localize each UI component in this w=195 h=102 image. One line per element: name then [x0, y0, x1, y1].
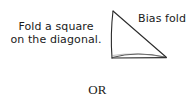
or-label: OR — [0, 82, 195, 97]
triangle-left-edge — [111, 11, 113, 58]
bias-fold-label: Bias fold — [138, 12, 186, 25]
figure-container: Fold a square on the diagonal. Bias fold… — [0, 0, 195, 102]
instruction-line-1: Fold a square — [4, 20, 108, 33]
instruction-line-2: on the diagonal. — [4, 33, 108, 46]
instruction-caption: Fold a square on the diagonal. — [4, 20, 108, 46]
